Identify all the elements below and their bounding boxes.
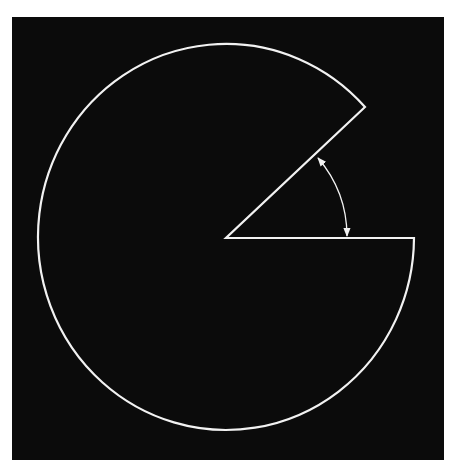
diagram-canvas bbox=[0, 0, 455, 465]
